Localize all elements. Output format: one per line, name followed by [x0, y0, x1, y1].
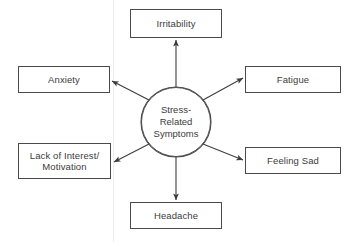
- node-box-irritability[interactable]: Irritability: [130, 9, 222, 38]
- node-box-anxiety[interactable]: Anxiety: [18, 66, 110, 93]
- edge-center-to-feeling-sad: [203, 144, 243, 160]
- node-label-headache: Headache: [154, 210, 198, 222]
- node-label-irritability: Irritability: [156, 18, 195, 30]
- edge-center-to-lack-of-interest: [114, 144, 149, 162]
- node-box-fatigue[interactable]: Fatigue: [245, 66, 341, 93]
- edge-center-to-fatigue: [203, 78, 243, 100]
- diagram-canvas: IrritabilityFatigueFeeling SadHeadacheLa…: [0, 0, 349, 242]
- node-box-lack-of-interest[interactable]: Lack of Interest/ Motivation: [18, 143, 111, 179]
- node-box-headache[interactable]: Headache: [130, 202, 222, 229]
- center-node-stress-related-symptoms[interactable]: Stress- Related Symptoms: [141, 87, 211, 157]
- node-label-fatigue: Fatigue: [277, 74, 309, 86]
- node-label-anxiety: Anxiety: [48, 74, 80, 86]
- node-box-feeling-sad[interactable]: Feeling Sad: [245, 147, 341, 174]
- node-label-feeling-sad: Feeling Sad: [267, 155, 319, 167]
- node-label-lack-of-interest: Lack of Interest/ Motivation: [30, 150, 99, 173]
- edge-center-to-anxiety: [112, 81, 149, 100]
